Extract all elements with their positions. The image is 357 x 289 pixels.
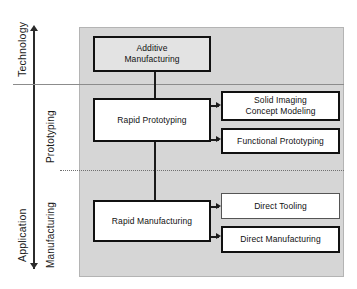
node-additive-manufacturing-line1: Additive [136, 43, 167, 53]
node-functional-prototyping[interactable]: Functional Prototyping [221, 128, 340, 154]
node-additive-manufacturing-line2: Manufacturing [124, 54, 179, 64]
node-solid-imaging-line2: Concept Modeling [245, 106, 315, 116]
node-rapid-prototyping-label: Rapid Prototyping [114, 115, 189, 126]
node-direct-manufacturing[interactable]: Direct Manufacturing [221, 226, 340, 253]
divider-technology-application [13, 84, 344, 85]
node-rapid-prototyping[interactable]: Rapid Prototyping [93, 98, 211, 142]
connector-am-to-rp [154, 72, 156, 98]
diagram-canvas: Technology Application Prototyping Manuf… [0, 0, 357, 289]
node-direct-manufacturing-label: Direct Manufacturing [237, 234, 323, 245]
node-rapid-manufacturing[interactable]: Rapid Manufacturing [93, 200, 211, 242]
axis-label-technology: Technology [16, 22, 28, 77]
node-solid-imaging-concept-modeling[interactable]: Solid Imaging Concept Modeling [221, 91, 340, 121]
node-solid-imaging-label: Solid Imaging Concept Modeling [242, 95, 318, 117]
axis-label-prototyping: Prototyping [45, 110, 56, 163]
node-direct-tooling[interactable]: Direct Tooling [221, 193, 340, 219]
axis-label-manufacturing: Manufacturing [45, 202, 56, 268]
axis-label-application: Application [16, 208, 28, 262]
divider-prototyping-manufacturing [60, 170, 344, 171]
node-rapid-manufacturing-label: Rapid Manufacturing [109, 216, 195, 227]
connector-rp-to-rm [154, 142, 156, 200]
node-functional-prototyping-label: Functional Prototyping [234, 136, 327, 147]
node-additive-manufacturing[interactable]: Additive Manufacturing [93, 36, 211, 72]
node-solid-imaging-line1: Solid Imaging [254, 95, 307, 105]
axis-line [33, 28, 35, 269]
node-additive-manufacturing-label: Additive Manufacturing [121, 43, 182, 65]
axis-arrow-down-icon [30, 263, 38, 269]
node-direct-tooling-label: Direct Tooling [251, 201, 310, 212]
